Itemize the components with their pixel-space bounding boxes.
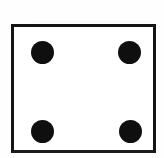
scan-artifact (30, 21, 150, 23)
pip-top-left (31, 41, 54, 64)
image-canvas: A square die face with four black dots, … (0, 0, 164, 158)
pip-bottom-left (31, 120, 54, 143)
image-alt-text: A square die face with four black dots, … (0, 0, 1, 1)
pip-bottom-right (119, 120, 142, 143)
die-face (11, 24, 156, 153)
pip-top-right (118, 41, 141, 64)
